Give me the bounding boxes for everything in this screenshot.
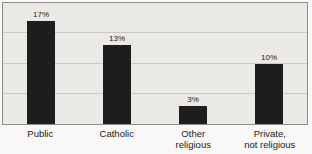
bar-cell: 13% [79,3,155,124]
bar [255,64,283,125]
category-axis: PublicCatholicOther religiousPrivate, no… [2,128,308,151]
bar-cell: 17% [3,3,79,124]
plot-area: 17%13%3%10% [2,2,308,125]
category-label: Public [2,128,79,151]
category-label: Other religious [155,128,232,151]
bar [103,45,131,124]
bar-value-label: 13% [109,35,125,43]
bar [27,21,55,124]
bar-value-label: 10% [261,54,277,62]
category-label: Private, not religious [232,128,309,151]
bar-cell: 10% [231,3,307,124]
bar-cell: 3% [155,3,231,124]
bar-chart: 17%13%3%10% PublicCatholicOther religiou… [0,0,312,154]
category-label: Catholic [79,128,156,151]
bar-value-label: 3% [187,96,199,104]
bars-row: 17%13%3%10% [3,3,307,124]
bar [179,106,207,124]
bar-value-label: 17% [33,11,49,19]
